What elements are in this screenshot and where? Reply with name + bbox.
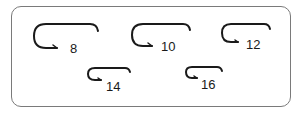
hook-size-label: 12 bbox=[246, 38, 260, 51]
hook-size-label: 8 bbox=[70, 42, 77, 55]
hook-size-label: 10 bbox=[161, 40, 175, 53]
hook-size-label: 14 bbox=[106, 80, 120, 93]
hook-8-icon bbox=[34, 24, 98, 48]
hook-diagram bbox=[0, 0, 302, 113]
hook-size-label: 16 bbox=[201, 78, 215, 91]
